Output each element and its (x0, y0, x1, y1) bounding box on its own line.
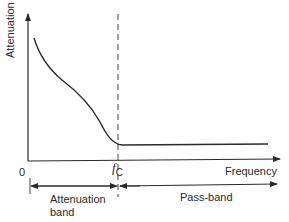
attenuation-curve (34, 38, 268, 145)
cutoff-subscript: C (116, 167, 123, 178)
cutoff-frequency-label: fC (112, 162, 123, 179)
origin-label: 0 (19, 166, 25, 178)
attenuation-band-label-line1: Attenuation (50, 193, 106, 205)
attenuation-band-label-line2: band (50, 206, 74, 218)
pass-band-label: Pass-band (180, 191, 233, 203)
y-axis-label: Attenuation (4, 2, 16, 58)
x-axis-label: Frequency (225, 165, 277, 177)
attenuation-diagram (0, 0, 289, 222)
x-axis (28, 159, 280, 161)
pass-band-arrow (120, 184, 277, 186)
